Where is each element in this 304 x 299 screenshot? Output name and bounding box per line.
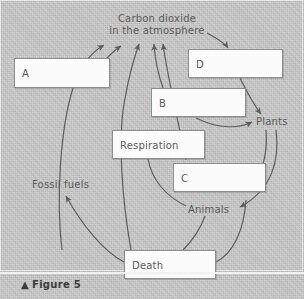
arrow-death-to-fossilfuels [66, 196, 124, 262]
box-respiration-label: Respiration [120, 139, 179, 150]
label-animals: Animals [188, 204, 229, 216]
co2-pool-label: Carbon dioxide in the atmosphere [92, 13, 222, 37]
arrow-b-to-co2 [154, 44, 163, 88]
box-b[interactable]: B [151, 88, 246, 117]
box-c[interactable]: C [173, 163, 266, 192]
caption-bar: ▲Figure 5 [0, 272, 304, 299]
figure-container: Carbon dioxide in the atmosphere A D B R… [0, 0, 304, 299]
box-respiration[interactable]: Respiration [112, 130, 205, 159]
co2-pool-label-line1: Carbon dioxide [92, 13, 222, 25]
diagram-area: Carbon dioxide in the atmosphere A D B R… [0, 0, 304, 272]
caption-triangle-icon: ▲ [21, 279, 29, 290]
label-fossil-fuels: Fossil fuels [32, 179, 89, 191]
box-b-label: B [159, 97, 166, 108]
arrow-animals-to-death [183, 216, 205, 250]
figure-caption: ▲Figure 5 [21, 279, 81, 290]
box-d[interactable]: D [188, 49, 283, 78]
box-c-label: C [181, 172, 188, 183]
box-a[interactable]: A [14, 58, 110, 88]
arrow-b-to-plants [196, 118, 252, 127]
caption-text: Figure 5 [32, 279, 81, 290]
box-d-label: D [196, 58, 204, 69]
label-plants: Plants [256, 116, 288, 128]
box-a-label: A [22, 68, 29, 79]
box-death-label: Death [132, 259, 163, 270]
co2-pool-label-line2: in the atmosphere [92, 25, 222, 37]
caption-divider [0, 272, 304, 274]
